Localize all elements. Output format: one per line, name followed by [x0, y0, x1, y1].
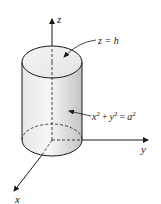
- y-axis-label: y: [140, 143, 146, 155]
- x-axis-label: x: [14, 193, 20, 204]
- cylinder-diagram: z y x z = h x2+y2=a2: [0, 0, 161, 204]
- x-axis: [14, 155, 42, 191]
- top-surface-label: z = h: [97, 35, 119, 46]
- z-axis-label: z: [56, 13, 62, 25]
- side-surface-label: x2+y2=a2: [91, 110, 136, 122]
